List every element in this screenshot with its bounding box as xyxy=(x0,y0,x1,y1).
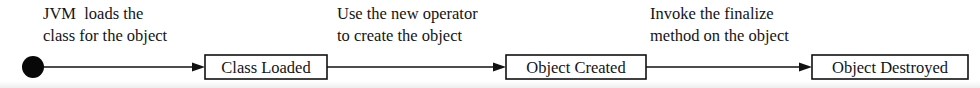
initial-state-dot xyxy=(22,56,44,78)
state-label-class-loaded: Class Loaded xyxy=(221,58,311,77)
transition-create-label-line2: to create the object xyxy=(337,26,462,45)
transition-create-label-line1: Use the new operator xyxy=(337,4,478,23)
transition-load-label-line2: class for the object xyxy=(43,26,168,45)
transition-load: JVM loads the class for the object xyxy=(43,4,205,72)
transition-load-arrowhead xyxy=(192,62,205,71)
transition-finalize-label-line2: method on the object xyxy=(650,26,789,45)
state-label-object-destroyed: Object Destroyed xyxy=(832,58,949,77)
transition-create-arrowhead xyxy=(493,62,506,71)
transition-finalize: Invoke the finalize method on the object xyxy=(646,4,812,72)
transition-load-label-line1: JVM loads the xyxy=(43,4,143,23)
transition-finalize-arrowhead xyxy=(799,62,812,71)
state-label-object-created: Object Created xyxy=(526,58,626,77)
state-node-object-created[interactable]: Object Created xyxy=(506,55,646,79)
state-node-object-destroyed[interactable]: Object Destroyed xyxy=(812,55,968,79)
state-node-class-loaded[interactable]: Class Loaded xyxy=(205,55,327,79)
transition-finalize-label-line1: Invoke the finalize xyxy=(650,4,774,23)
transition-create: Use the new operator to create the objec… xyxy=(327,4,506,72)
object-lifecycle-diagram: JVM loads the class for the object Use t… xyxy=(0,0,980,88)
lifecycle-diagram-canvas: JVM loads the class for the object Use t… xyxy=(0,0,980,88)
